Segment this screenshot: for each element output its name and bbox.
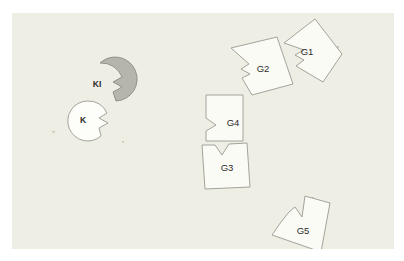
disk-K-shape[interactable] <box>68 101 108 141</box>
app-root: KI K G2 G1 G4 <box>0 0 404 261</box>
shape-canvas-panel[interactable]: KI K G2 G1 G4 <box>12 13 394 249</box>
disk-K[interactable]: K <box>68 101 108 141</box>
piece-G4[interactable]: G4 <box>206 95 243 141</box>
piece-G3[interactable]: G3 <box>202 143 250 189</box>
shape-canvas-svg[interactable]: KI K G2 G1 G4 <box>12 13 394 249</box>
disk-KI-label: KI <box>93 79 102 89</box>
speck-mark <box>122 141 124 143</box>
piece-G3-shape[interactable] <box>202 143 250 189</box>
disk-KI-shape[interactable] <box>100 57 137 101</box>
speck-mark <box>52 131 55 133</box>
piece-G5-shape[interactable] <box>272 196 330 249</box>
piece-G2-shape[interactable] <box>231 37 293 95</box>
piece-G1-shape[interactable] <box>284 19 342 82</box>
piece-G5[interactable]: G5 <box>272 196 330 249</box>
piece-G2[interactable]: G2 <box>231 37 293 95</box>
piece-G1[interactable]: G1 <box>284 19 342 82</box>
piece-G4-shape[interactable] <box>206 95 243 141</box>
disk-KI[interactable]: KI <box>93 57 137 101</box>
